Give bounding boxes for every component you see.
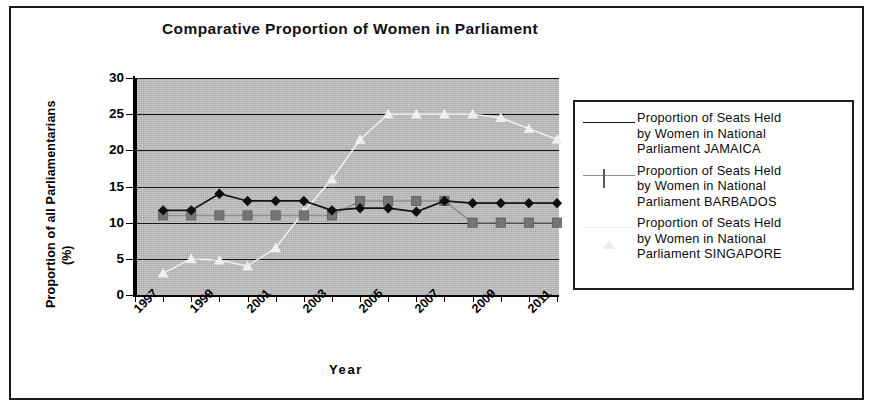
plot-area — [135, 78, 559, 295]
y-axis-line — [133, 76, 135, 297]
gridline — [137, 187, 559, 188]
y-axis-tick-label: 25 — [78, 107, 124, 121]
triangle-marker-icon — [603, 223, 615, 249]
y-axis-tick-label: 15 — [78, 180, 124, 194]
gridline — [137, 114, 559, 115]
y-axis-tick-label: 20 — [78, 143, 124, 157]
legend-item-jamaica[interactable]: Proportion of Seats Held by Women in Nat… — [581, 110, 846, 157]
gridline — [137, 259, 559, 260]
x-axis-tick — [219, 295, 220, 302]
y-axis-title: Proportion of all Parliamentarians (%) — [18, 60, 52, 310]
x-axis-tick — [332, 295, 333, 302]
x-axis-tick — [557, 295, 558, 302]
x-axis-title: Year — [135, 362, 557, 377]
legend-label-singapore: Proportion of Seats Held by Women in Nat… — [637, 215, 782, 262]
legend-key-singapore — [581, 219, 637, 237]
legend-label-barbados: Proportion of Seats Held by Women in Nat… — [637, 163, 781, 210]
y-axis-tick — [126, 114, 133, 115]
legend: Proportion of Seats Held by Women in Nat… — [573, 100, 854, 290]
y-axis-tick-label: 30 — [78, 71, 124, 85]
y-axis-tick — [126, 78, 133, 79]
y-axis-tick — [126, 259, 133, 260]
y-axis-tick — [126, 223, 133, 224]
x-axis-tick — [276, 295, 277, 302]
x-axis-tick — [444, 295, 445, 302]
gridline — [137, 78, 559, 79]
y-axis-tick — [126, 150, 133, 151]
gridline — [137, 223, 559, 224]
x-axis-tick — [163, 295, 164, 302]
y-axis-units-text: (%) — [60, 246, 74, 265]
x-axis-tick — [501, 295, 502, 302]
y-axis-tick — [126, 295, 133, 296]
legend-item-singapore[interactable]: Proportion of Seats Held by Women in Nat… — [581, 215, 846, 262]
y-axis-tick-label: 0 — [78, 288, 124, 302]
y-axis-tick — [126, 187, 133, 188]
legend-key-barbados — [581, 167, 637, 185]
legend-item-barbados[interactable]: Proportion of Seats Held by Women in Nat… — [581, 163, 846, 210]
y-axis-tick-label: 10 — [78, 216, 124, 230]
legend-key-jamaica — [581, 114, 637, 132]
x-axis-tick — [388, 295, 389, 302]
gridline — [137, 150, 559, 151]
chart-figure: Comparative Proportion of Women in Parli… — [0, 0, 873, 408]
y-axis-tick-label: 5 — [78, 252, 124, 266]
y-axis-tick-labels: 051015202530 — [74, 0, 124, 408]
y-axis-title-text: Proportion of all Parliamentarians — [44, 100, 58, 308]
legend-label-jamaica: Proportion of Seats Held by Women in Nat… — [637, 110, 781, 157]
square-marker-icon — [603, 169, 605, 188]
